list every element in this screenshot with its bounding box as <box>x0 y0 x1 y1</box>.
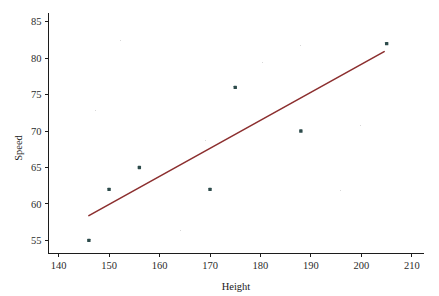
y-tick-label: 55 <box>31 235 42 246</box>
data-point-marker <box>208 188 211 191</box>
regression-line <box>89 52 384 216</box>
data-point-marker <box>234 86 237 89</box>
y-axis-ticks: 55606570758085 <box>31 16 49 246</box>
scan-noise <box>95 40 361 231</box>
y-tick-label: 85 <box>31 16 42 27</box>
x-tick-label: 160 <box>152 260 168 271</box>
data-point-marker <box>385 42 388 45</box>
regression-line-path <box>89 52 384 216</box>
y-tick-label: 80 <box>31 53 42 64</box>
x-tick-label: 170 <box>202 260 218 271</box>
x-tick-label: 150 <box>101 260 117 271</box>
data-point-marker <box>299 129 302 132</box>
data-points-group <box>87 42 388 242</box>
x-axis-ticks: 140150160170180190200210 <box>51 254 420 271</box>
plot-canvas: 55606570758085 140150160170180190200210 … <box>0 0 439 296</box>
x-tick-label: 140 <box>51 260 67 271</box>
scatter-plot-figure: 55606570758085 140150160170180190200210 … <box>0 0 439 296</box>
x-tick-label: 210 <box>404 260 420 271</box>
x-tick-label: 180 <box>253 260 269 271</box>
y-tick-label: 65 <box>31 162 42 173</box>
x-tick-label: 190 <box>303 260 319 271</box>
y-tick-label: 75 <box>31 89 42 100</box>
y-tick-label: 60 <box>31 199 42 210</box>
data-point-marker <box>138 166 141 169</box>
data-point-marker <box>107 188 110 191</box>
x-axis-title: Height <box>222 281 251 292</box>
y-axis-title: Speed <box>13 134 24 160</box>
x-tick-label: 200 <box>354 260 370 271</box>
data-point-marker <box>87 239 90 242</box>
y-tick-label: 70 <box>31 126 42 137</box>
